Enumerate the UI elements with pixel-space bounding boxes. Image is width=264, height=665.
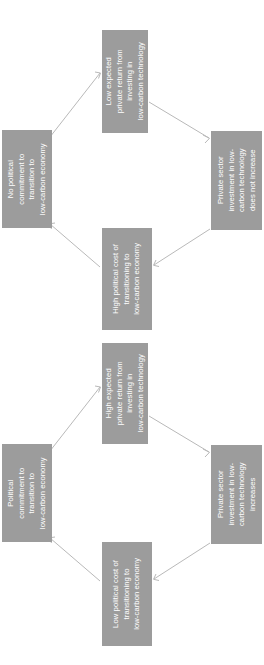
node-label: Low expectedprivate return frominvesting… xyxy=(104,42,146,120)
node-low-expected-private-return[interactable]: Low expectedprivate return frominvesting… xyxy=(102,30,148,133)
node-high-expected-private-return[interactable]: High expectedprivate return frominvestin… xyxy=(102,343,148,444)
node-label: High expectedprivate return frominvestin… xyxy=(104,354,146,432)
edge-north-to-east xyxy=(149,416,210,457)
node-private-investment-increases[interactable]: Private sectorinvestment in low-carbon t… xyxy=(211,445,262,544)
node-label: High political cost oftransitioning tolo… xyxy=(111,243,143,315)
node-no-political-commitment[interactable]: No politicalcommitment totransition tolo… xyxy=(2,130,52,228)
edge-south-to-west xyxy=(50,223,101,267)
vicious-cycle-group: No politicalcommitment totransition tolo… xyxy=(0,0,264,335)
node-label: Low political cost oftransitioning tolow… xyxy=(111,558,143,630)
virtuous-cycle-group: Politicalcommitment totransition tolow-c… xyxy=(0,332,264,665)
node-label: No politicalcommitment totransition tolo… xyxy=(6,143,48,215)
node-label: Politicalcommitment totransition tolow-c… xyxy=(6,457,48,529)
node-private-investment-does-not-increase[interactable]: Private sectorinvestment in low-carbon t… xyxy=(211,131,262,230)
node-political-commitment[interactable]: Politicalcommitment totransition tolow-c… xyxy=(2,444,52,542)
edge-east-to-south xyxy=(154,543,211,581)
edge-east-to-south xyxy=(154,229,211,267)
node-label: Private sectorinvestment in low-carbon t… xyxy=(215,463,257,527)
edge-north-to-east xyxy=(149,102,210,143)
edge-west-to-north xyxy=(50,72,101,137)
edge-south-to-west xyxy=(50,537,101,581)
diagram-canvas: No politicalcommitment totransition tolo… xyxy=(0,0,264,665)
node-high-political-cost[interactable]: High political cost oftransitioning tolo… xyxy=(102,228,152,330)
edge-west-to-north xyxy=(50,386,101,451)
node-label: Private sectorinvestment in low-carbon t… xyxy=(215,149,257,213)
node-low-political-cost[interactable]: Low political cost oftransitioning tolow… xyxy=(102,542,152,646)
